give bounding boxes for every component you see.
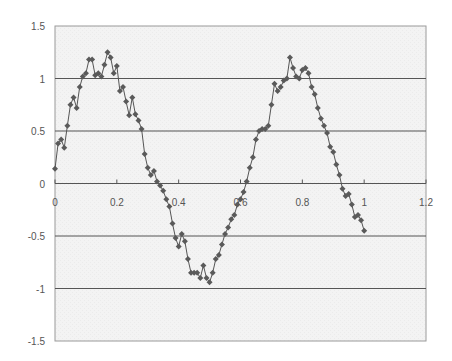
y-tick-label: 1 [39,74,45,85]
y-tick-label: 0 [39,179,45,190]
y-tick-label: -1.5 [28,336,46,347]
line-chart: 1.510.50-0.5-1-1.5 00.20.40.60.811.2 [0,0,452,361]
x-tick-label: 1 [361,197,367,208]
y-tick-label: 0.5 [31,126,45,137]
y-tick-label: -1 [36,284,45,295]
x-tick-label: 0.8 [295,197,309,208]
x-tick-label: 0.4 [172,197,186,208]
x-tick-label: 1.2 [419,197,433,208]
y-axis-labels: 1.510.50-0.5-1-1.5 [28,21,46,347]
y-tick-label: 1.5 [31,21,45,32]
x-tick-label: 0.2 [110,197,124,208]
y-tick-label: -0.5 [28,231,46,242]
x-tick-label: 0 [52,197,58,208]
